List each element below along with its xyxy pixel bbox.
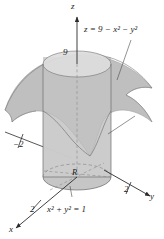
axis-x [16, 177, 77, 228]
base-equation-label: x² + y² = 1 [47, 205, 86, 214]
axis-label-z: z [71, 2, 75, 11]
surface-pointer-line [108, 116, 135, 134]
tick-label-x-2: 2 [30, 205, 35, 214]
tick-label-y-negative-2: −2 [13, 140, 24, 149]
surface-equation-label: z = 9 − x² − y² [84, 25, 137, 34]
region-label-R: R [72, 168, 77, 177]
tick-label-z-9: 9 [63, 48, 68, 57]
tick-label-y-2: 2 [124, 185, 129, 194]
figure-container: z 9 z = 9 − x² − y² −2 2 y 2 x R x² + y²… [0, 0, 164, 239]
axis-label-x: x [9, 225, 13, 234]
axis-label-y: y [150, 192, 154, 201]
